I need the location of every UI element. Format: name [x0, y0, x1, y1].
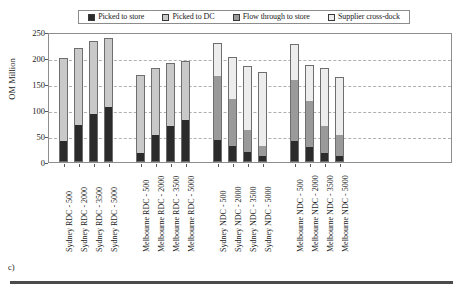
bar-segment	[74, 48, 83, 125]
bar-segment	[258, 72, 267, 146]
x-tick-label: Melbourne NDC - 3500	[327, 166, 335, 252]
bar-column[interactable]	[89, 41, 98, 162]
x-tick-label: Sydney RDC - 500	[66, 166, 74, 252]
bar-segment	[335, 77, 344, 135]
y-axis-title: OM Million	[7, 49, 17, 109]
bar-segment	[213, 43, 222, 76]
bar-segment	[104, 38, 113, 107]
bar-column[interactable]	[151, 68, 160, 162]
bar-column[interactable]	[213, 43, 222, 162]
bar-segment	[151, 135, 160, 162]
legend-label: Supplier cross-dock	[338, 13, 400, 21]
bar-segment	[213, 76, 222, 140]
bar-segment	[335, 156, 344, 162]
x-tick-label: Sydney NDC - 2000	[235, 166, 243, 252]
bar-column[interactable]	[320, 68, 329, 162]
y-tick-label: 0	[19, 159, 45, 168]
x-tick-label: Melbourne NDC - 500	[297, 166, 305, 252]
footer-divider	[10, 281, 453, 284]
bar-segment	[305, 101, 314, 148]
legend-swatch-icon	[233, 14, 240, 21]
plot-area	[48, 33, 452, 163]
figure-container: Picked to store Picked to DC Flow throug…	[0, 0, 463, 289]
y-tick-label: 150	[19, 81, 45, 90]
x-tick-label: Sydney RDC - 5000	[111, 166, 119, 252]
x-tick-label: Melbourne NDC - 2000	[312, 166, 320, 252]
bar-segment	[290, 80, 299, 141]
bar-segment	[166, 63, 175, 125]
legend-item-supplier-cross-dock: Supplier cross-dock	[328, 13, 400, 21]
y-tick-label: 50	[19, 133, 45, 142]
x-axis-labels: Sydney RDC - 500Sydney RDC - 2000Sydney …	[48, 166, 452, 256]
bar-column[interactable]	[104, 38, 113, 162]
bar-segment	[151, 68, 160, 135]
bar-segment	[181, 61, 190, 121]
legend-swatch-icon	[328, 14, 335, 21]
bar-column[interactable]	[335, 77, 344, 162]
bar-segment	[136, 153, 145, 162]
bar-segment	[89, 114, 98, 162]
bar-segment	[320, 126, 329, 153]
x-tick-label: Sydney RDC - 2000	[81, 166, 89, 252]
x-tick-label: Melbourne RDC - 3500	[173, 166, 181, 252]
legend-item-picked-to-store: Picked to store	[88, 13, 144, 21]
bar-segment	[228, 57, 237, 99]
bar-column[interactable]	[74, 48, 83, 162]
x-tick-label: Melbourne RDC - 2000	[158, 166, 166, 252]
bar-segment	[89, 41, 98, 114]
bar-segment	[228, 146, 237, 162]
chart-legend: Picked to store Picked to DC Flow throug…	[78, 10, 410, 24]
bar-segment	[335, 135, 344, 156]
x-tick-label: Melbourne RDC - 500	[143, 166, 151, 252]
bar-series-group	[49, 34, 451, 162]
legend-item-flow-through-to-store: Flow through to store	[233, 13, 310, 21]
x-tick-label: Sydney NDC - 500	[220, 166, 228, 252]
x-tick-label: Melbourne NDC - 5000	[342, 166, 350, 252]
y-tick-mark	[45, 163, 48, 164]
legend-swatch-icon	[88, 14, 95, 21]
bar-segment	[74, 125, 83, 162]
bar-segment	[228, 99, 237, 147]
bar-segment	[305, 65, 314, 100]
y-tick-label: 100	[19, 107, 45, 116]
bar-column[interactable]	[258, 72, 267, 162]
bar-segment	[59, 58, 68, 141]
bar-segment	[305, 147, 314, 162]
legend-label: Picked to DC	[172, 13, 214, 21]
bar-column[interactable]	[305, 65, 314, 162]
bar-segment	[136, 75, 145, 153]
legend-item-picked-to-dc: Picked to DC	[162, 13, 214, 21]
legend-label: Picked to store	[98, 13, 144, 21]
x-tick-label: Sydney NDC - 5000	[265, 166, 273, 252]
bar-column[interactable]	[166, 63, 175, 162]
bar-segment	[243, 66, 252, 129]
bar-segment	[320, 153, 329, 162]
bar-segment	[258, 146, 267, 155]
y-tick-label: 200	[19, 55, 45, 64]
bar-segment	[258, 156, 267, 162]
bar-column[interactable]	[181, 61, 190, 162]
legend-swatch-icon	[162, 14, 169, 21]
bar-segment	[59, 141, 68, 162]
x-tick-label: Sydney NDC - 3500	[250, 166, 258, 252]
bar-column[interactable]	[290, 44, 299, 162]
bar-column[interactable]	[228, 57, 237, 162]
y-tick-label: 250	[19, 29, 45, 38]
bar-segment	[166, 126, 175, 162]
bar-segment	[290, 44, 299, 79]
legend-label: Flow through to store	[243, 13, 310, 21]
bar-column[interactable]	[136, 75, 145, 162]
bar-segment	[243, 130, 252, 152]
bar-segment	[104, 107, 113, 162]
figure-caption: c)	[8, 262, 15, 272]
bar-segment	[213, 140, 222, 162]
bar-segment	[320, 68, 329, 125]
x-tick-label: Melbourne RDC - 5000	[188, 166, 196, 252]
bar-segment	[181, 120, 190, 162]
bar-segment	[243, 152, 252, 162]
bar-column[interactable]	[243, 66, 252, 162]
bar-segment	[290, 141, 299, 162]
bar-column[interactable]	[59, 58, 68, 162]
x-tick-label: Sydney RDC - 3500	[96, 166, 104, 252]
